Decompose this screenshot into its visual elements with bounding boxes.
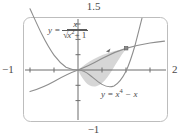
upper-equation-fraction: x √x2+ 1: [62, 20, 88, 40]
x-axis-min-label: −1: [2, 64, 14, 75]
upper-curve-pointer-icon: [106, 49, 111, 53]
lower-equation-tail: − x: [125, 89, 137, 99]
radicand: x2+ 1: [67, 29, 87, 40]
upper-curve-equation: y = x √x2+ 1: [48, 20, 88, 40]
lower-equation-lhs: y =: [101, 89, 113, 99]
upper-equation-denominator: √x2+ 1: [62, 31, 88, 40]
y-axis-min-label: −1: [0, 124, 187, 135]
x-axis-max-label: 2: [172, 64, 178, 75]
y-axis-max-label: 1.5: [0, 1, 187, 12]
lower-equation-exponent: 4: [120, 87, 123, 94]
intersection-marker: [124, 46, 128, 50]
upper-equation-numerator: x: [67, 20, 83, 29]
upper-equation-lhs: y =: [48, 26, 60, 35]
graph-figure: [0, 0, 187, 140]
lower-curve-equation: y = x4 − x: [101, 90, 137, 99]
